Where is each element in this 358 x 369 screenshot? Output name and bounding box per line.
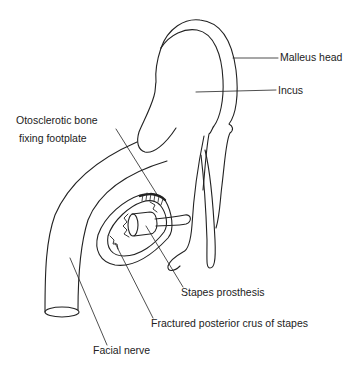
facial-nerve-outer (45, 142, 137, 312)
incus-body (138, 48, 176, 152)
incus-long-process (201, 150, 215, 268)
label-otosclerotic-line2: fixing footplate (19, 133, 87, 144)
prosthesis-wire (155, 215, 190, 226)
leader-facial-nerve (70, 258, 107, 345)
facial-nerve-end (45, 307, 79, 317)
facial-nerve-inner (78, 161, 167, 310)
leader-stapes-prosthesis (146, 226, 183, 287)
incus-lenticular (168, 136, 204, 271)
leader-lines (70, 58, 278, 345)
label-fractured-crus: Fractured posterior crus of stapes (151, 318, 308, 329)
leader-incus (196, 90, 276, 92)
otosclerotic-bone (140, 194, 165, 200)
incus-shape (161, 30, 223, 190)
label-stapes-prosthesis: Stapes prosthesis (181, 287, 264, 298)
malleus-head-shape (161, 20, 237, 228)
label-malleus-head: Malleus head (280, 52, 342, 63)
label-otosclerotic-line1: Otosclerotic bone (16, 115, 98, 126)
prosthesis-piston-end (128, 214, 138, 236)
diagram-canvas: Malleus head Incus Otosclerotic bone fix… (0, 0, 358, 369)
footplate-fragment (150, 202, 157, 212)
label-facial-nerve: Facial nerve (93, 345, 150, 356)
label-incus: Incus (278, 85, 303, 96)
leader-otosclerotic (116, 129, 158, 196)
